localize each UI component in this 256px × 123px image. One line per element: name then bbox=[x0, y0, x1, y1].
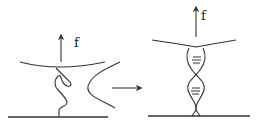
diagram-svg bbox=[0, 0, 256, 123]
left-panel bbox=[8, 35, 120, 117]
coiled-strand bbox=[55, 68, 71, 117]
base-pairs-upper bbox=[192, 57, 201, 63]
diagram-canvas: f f bbox=[0, 0, 256, 123]
free-strand bbox=[88, 62, 120, 108]
base-pairs-lower bbox=[191, 88, 200, 94]
force-label-right: f bbox=[201, 9, 206, 22]
top-surface-right bbox=[152, 40, 236, 47]
top-surface-left bbox=[20, 62, 105, 67]
right-panel bbox=[148, 7, 250, 116]
force-label-left: f bbox=[74, 36, 79, 49]
